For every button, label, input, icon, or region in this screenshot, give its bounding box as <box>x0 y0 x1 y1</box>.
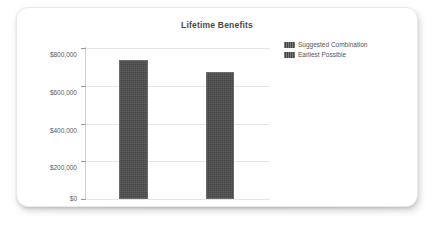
legend-label-earliest-possible: Earliest Possible <box>298 51 346 59</box>
legend-swatch-icon <box>284 52 295 58</box>
bar-suggested-combination[interactable] <box>119 60 148 199</box>
plot-area <box>86 48 270 199</box>
gridline-800000 <box>86 48 270 49</box>
screenshot-root: Lifetime Benefits $800,000 $600,000 $400… <box>0 0 436 226</box>
chart-card: Lifetime Benefits $800,000 $600,000 $400… <box>16 7 418 207</box>
y-axis-tick-label-800000: $800,000 <box>21 51 77 58</box>
legend-swatch-icon <box>284 42 295 48</box>
chart-title: Lifetime Benefits <box>17 20 417 30</box>
chart-legend: Suggested Combination Earliest Possible <box>284 41 404 61</box>
gridline-0 <box>86 199 270 200</box>
y-axis-tick-label-0: $0 <box>21 195 77 202</box>
legend-item-suggested-combination[interactable]: Suggested Combination <box>284 41 404 49</box>
gridline-200000 <box>86 161 270 162</box>
y-axis-tick-label-600000: $600,000 <box>21 89 77 96</box>
legend-label-suggested-combination: Suggested Combination <box>298 41 367 49</box>
gridline-600000 <box>86 86 270 87</box>
y-axis-tick-label-400000: $400,000 <box>21 127 77 134</box>
bar-earliest-possible[interactable] <box>206 72 234 199</box>
y-axis-tick-label-200000: $200,000 <box>21 164 77 171</box>
legend-item-earliest-possible[interactable]: Earliest Possible <box>284 51 404 59</box>
gridline-400000 <box>86 124 270 125</box>
